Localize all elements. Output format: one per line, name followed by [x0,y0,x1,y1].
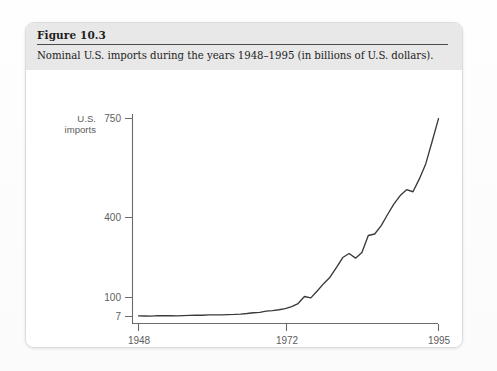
y-tick-label-100: 100 [104,292,121,303]
x-tick-label-1972: 1972 [276,335,299,346]
y-axis-label-line2: imports [65,124,97,135]
x-tick-label-1948: 1948 [128,335,151,346]
imports-line-series [139,119,439,316]
y-tick-label-750: 750 [104,113,121,124]
figure-number-label: Figure 10.3 [37,28,462,42]
y-axis-label-line1: U.S. [77,113,96,124]
figure-card: Figure 10.3 Nominal U.S. imports during … [25,22,463,348]
figure-caption: Nominal U.S. imports during the years 19… [37,48,455,63]
y-tick-label-7: 7 [115,311,121,322]
x-tick-label-1995: 1995 [428,335,451,346]
figure-header-rule [37,44,448,45]
line-chart-svg: 750 400 100 7 U.S. imports 1948 1972 199… [26,70,463,348]
y-tick-label-400: 400 [104,212,121,223]
plot-area: 750 400 100 7 U.S. imports 1948 1972 199… [26,70,463,348]
